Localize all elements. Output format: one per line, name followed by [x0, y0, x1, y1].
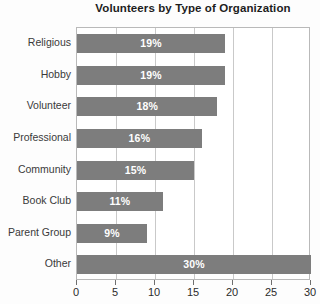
chart-title: Volunteers by Type of Organization: [76, 2, 310, 14]
bar-value-label: 30%: [77, 255, 311, 274]
x-tick-label-25: 25: [256, 286, 286, 298]
bar-value-label: 18%: [77, 97, 217, 116]
bar-value-label: 15%: [77, 161, 194, 180]
x-tick-label-30: 30: [295, 286, 320, 298]
bar-row: 16%: [77, 123, 309, 155]
bar-chart: Volunteers by Type of Organization 19%19…: [0, 0, 320, 304]
bar: 18%: [77, 97, 217, 116]
bar-value-label: 19%: [77, 66, 225, 85]
x-tick-label-20: 20: [217, 286, 247, 298]
category-label-religious: Religious: [0, 27, 71, 59]
category-label-community: Community: [0, 154, 71, 186]
x-axis: 051015202530: [76, 280, 310, 304]
plot-area: 19%19%18%16%15%11%9%30%: [76, 27, 310, 280]
bar: 16%: [77, 129, 202, 148]
x-tick-mark-25: [271, 280, 272, 285]
category-label-other: Other: [0, 248, 71, 280]
x-tick-mark-20: [232, 280, 233, 285]
category-label-hobby: Hobby: [0, 59, 71, 91]
bar: 9%: [77, 224, 147, 243]
bar: 19%: [77, 66, 225, 85]
bar-value-label: 9%: [77, 224, 147, 243]
bar-series: 19%19%18%16%15%11%9%30%: [77, 28, 309, 279]
category-label-professional: Professional: [0, 122, 71, 154]
bar-row: 30%: [77, 249, 309, 281]
x-tick-mark-5: [115, 280, 116, 285]
x-tick-mark-15: [193, 280, 194, 285]
category-axis-labels: ReligiousHobbyVolunteerProfessionalCommu…: [0, 27, 71, 280]
category-label-book-club: Book Club: [0, 185, 71, 217]
category-label-parent-group: Parent Group: [0, 217, 71, 249]
bar: 15%: [77, 161, 194, 180]
x-tick-label-5: 5: [100, 286, 130, 298]
bar: 19%: [77, 34, 225, 53]
bar-value-label: 16%: [77, 129, 202, 148]
bar-row: 19%: [77, 60, 309, 92]
bar: 30%: [77, 255, 311, 274]
bar-row: 18%: [77, 91, 309, 123]
bar-row: 19%: [77, 28, 309, 60]
x-tick-mark-10: [154, 280, 155, 285]
x-tick-label-15: 15: [178, 286, 208, 298]
x-tick-label-10: 10: [139, 286, 169, 298]
bar-value-label: 19%: [77, 34, 225, 53]
category-label-volunteer: Volunteer: [0, 90, 71, 122]
bar-value-label: 11%: [77, 192, 163, 211]
bar-row: 15%: [77, 155, 309, 187]
x-tick-mark-30: [310, 280, 311, 285]
x-tick-label-0: 0: [61, 286, 91, 298]
x-tick-mark-0: [76, 280, 77, 285]
bar-row: 11%: [77, 186, 309, 218]
bar-row: 9%: [77, 218, 309, 250]
bar: 11%: [77, 192, 163, 211]
